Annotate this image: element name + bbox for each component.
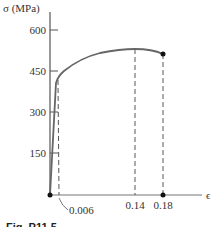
origin-point — [48, 193, 53, 198]
y-axis-title: σ (MPa) — [3, 2, 40, 15]
x-label-014: 0.14 — [125, 199, 145, 211]
figure-caption: Fig. P11.5 — [6, 221, 57, 227]
fracture-point — [161, 52, 166, 57]
x-018-point — [161, 193, 166, 198]
x-label-0006: 0.006 — [69, 204, 94, 216]
y-tick-label-450: 450 — [30, 65, 47, 77]
y-tick-label-300: 300 — [30, 106, 47, 118]
leader-0006 — [59, 198, 68, 210]
x-label-018: 0.18 — [153, 199, 173, 211]
dashed-line-0006 — [58, 80, 59, 195]
y-tick-label-600: 600 — [30, 24, 47, 36]
x-axis-title: ϵ — [206, 189, 211, 201]
y-tick-label-150: 150 — [30, 147, 47, 159]
stress-strain-chart: 600 450 300 150 σ (MPa) ϵ 0.006 0.14 0.1… — [0, 0, 223, 227]
stress-strain-curve — [50, 49, 163, 195]
